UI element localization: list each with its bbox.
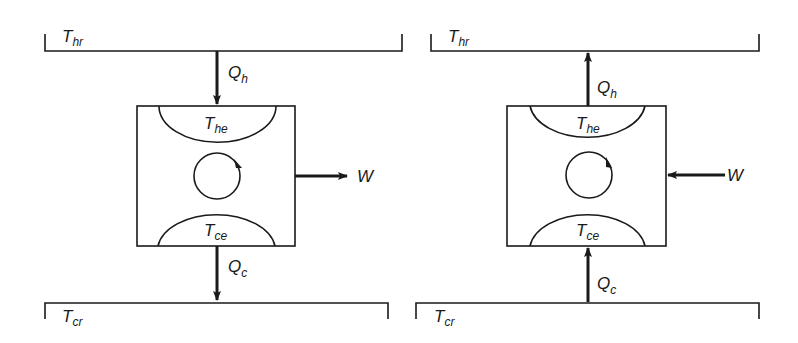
thermodynamic-cycles-diagram: Thr Qh The W Tce: [0, 0, 798, 343]
hot-exchanger: The: [530, 106, 645, 137]
heat-hot-label: Qh: [597, 78, 617, 101]
heat-cold-label: Qc: [228, 257, 247, 280]
heat-in-arrow: Qh: [217, 51, 248, 104]
hot-exchanger-label: The: [204, 114, 228, 136]
heat-reject-arrow: Qc: [217, 246, 247, 300]
heat-hot-label: Qh: [228, 63, 248, 86]
heat-out-arrow: Qh: [588, 53, 617, 106]
pump-panel: Thr Qh The W Tce: [416, 27, 759, 329]
work-output-arrow: W: [295, 167, 375, 186]
hot-reservoir-label: Thr: [448, 27, 470, 49]
cold-exchanger-label: Tce: [576, 221, 599, 243]
cold-exchanger-label: Tce: [204, 221, 227, 243]
cold-reservoir: Tcr: [416, 303, 759, 329]
work-label: W: [727, 166, 745, 185]
heat-absorb-arrow: Qc: [588, 248, 616, 302]
hot-reservoir: Thr: [431, 27, 759, 51]
cold-reservoir-label: Tcr: [434, 307, 455, 329]
engine-panel: Thr Qh The W Tce: [45, 27, 402, 329]
cold-reservoir: Tcr: [45, 303, 388, 329]
work-input-arrow: W: [668, 166, 745, 185]
hot-reservoir-label: Thr: [62, 27, 84, 49]
cycle-icon: [194, 153, 242, 199]
hot-reservoir: Thr: [45, 27, 402, 51]
cold-reservoir-label: Tcr: [62, 307, 83, 329]
work-label: W: [357, 167, 375, 186]
hot-exchanger-label: The: [576, 114, 600, 136]
hot-exchanger: The: [159, 106, 276, 142]
heat-cold-label: Qc: [597, 274, 616, 297]
cold-exchanger: Tce: [158, 215, 275, 246]
cold-exchanger: Tce: [530, 215, 645, 246]
cycle-icon: [566, 152, 612, 198]
